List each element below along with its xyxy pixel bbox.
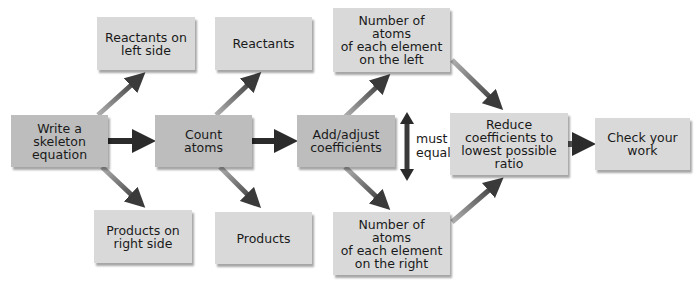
must-equal-double-arrow <box>400 112 414 181</box>
node-reactants-left-side: Reactants on left side <box>97 17 195 70</box>
node-reduce-coefficients: Reduce coefficients to lowest possible r… <box>450 113 568 175</box>
node-reactants: Reactants <box>215 17 312 70</box>
node-check-your-work: Check your work <box>595 118 690 170</box>
must-equal-label: must equal <box>416 132 451 160</box>
arrow-adjust-to-atoms-right <box>345 167 383 203</box>
node-atoms-right: Number of atoms of each element on the r… <box>333 212 450 275</box>
node-atoms-left: Number of atoms of each element on the l… <box>333 8 450 72</box>
node-count-atoms: Count atoms <box>155 115 252 167</box>
arrow-skeleton-to-products-right <box>102 167 138 201</box>
node-products-right-side: Products on right side <box>94 210 192 263</box>
arrow-count-to-products <box>220 167 254 201</box>
arrow-skeleton-to-reactants-left <box>98 79 138 115</box>
arrow-count-to-reactants <box>216 79 254 115</box>
node-products: Products <box>215 212 312 264</box>
arrow-adjust-to-atoms-left <box>345 81 383 117</box>
arrow-atoms-left-to-reduce <box>452 60 496 103</box>
node-add-adjust-coefficients: Add/adjust coefficients <box>297 115 395 167</box>
node-write-skeleton-equation: Write a skeleton equation <box>11 115 108 167</box>
arrow-atoms-right-to-reduce <box>452 184 496 222</box>
